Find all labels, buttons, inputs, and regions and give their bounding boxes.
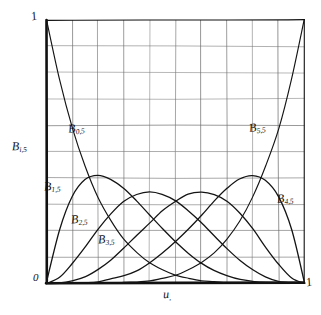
curve-label-b3: B3,5 bbox=[98, 232, 115, 247]
origin-label: 0 bbox=[33, 272, 39, 283]
curve-label-b2: B2,5 bbox=[71, 212, 88, 227]
plot-top-border bbox=[47, 20, 305, 21]
y-axis-title: Bi,5 bbox=[12, 140, 27, 154]
curve-label-b5: B5,5 bbox=[248, 120, 266, 135]
curve-label-b0-subscript: 0,5 bbox=[75, 126, 85, 136]
plot-background bbox=[0, 0, 321, 315]
curve-label-b2-subscript: 2,5 bbox=[78, 218, 87, 228]
bspline-basis-chart bbox=[0, 0, 321, 315]
curve-label-b4: B4,5 bbox=[276, 191, 293, 206]
curve-label-b1-subscript: 1,5 bbox=[51, 185, 60, 194]
curve-label-b5-subscript: 5,5 bbox=[256, 125, 266, 135]
x-axis-title: u, bbox=[163, 288, 171, 302]
curve-label-b3-subscript: 3,5 bbox=[105, 238, 114, 248]
curve-label-b0: B0,5 bbox=[67, 121, 85, 136]
curve-label-b1: B1,5 bbox=[44, 180, 61, 194]
y-axis-title-subscript: i,5 bbox=[19, 145, 27, 154]
x-axis-title-subscript: , bbox=[169, 293, 171, 302]
curve-label-b4-subscript: 4,5 bbox=[284, 196, 294, 206]
y-axis bbox=[46, 20, 47, 283]
